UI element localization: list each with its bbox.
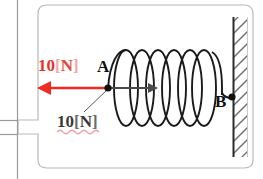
- force-value: 10: [38, 56, 55, 75]
- anchor-dot-a: [104, 84, 111, 91]
- point-label-b: B: [215, 93, 226, 110]
- force-magnitude-label: 10[N]: [38, 57, 79, 74]
- figure-canvas: 10[N] A B 10[N]: [0, 0, 263, 179]
- reading-value: 10: [57, 112, 74, 131]
- force-close-bracket: ]: [73, 56, 79, 75]
- reading-unit: N: [80, 112, 92, 131]
- reading-magnitude-label: 10[N]: [57, 113, 98, 130]
- reading-close-bracket: ]: [92, 112, 98, 131]
- panel-outline: [18, 5, 253, 168]
- point-label-a: A: [97, 58, 109, 75]
- diagram-svg: [0, 0, 263, 179]
- anchor-dot-b: [228, 93, 235, 100]
- force-unit: N: [61, 56, 73, 75]
